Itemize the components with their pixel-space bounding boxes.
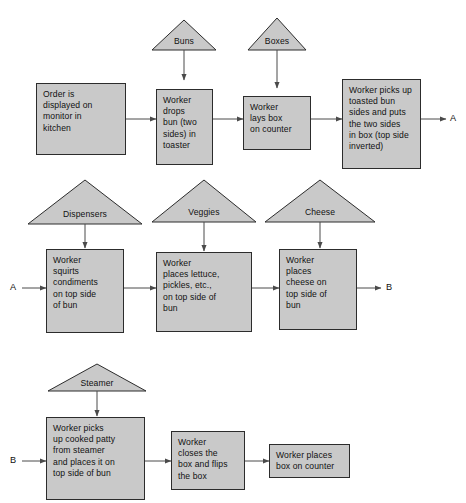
input-label-steamer: Steamer bbox=[48, 378, 146, 388]
input-label-dispensers: Dispensers bbox=[28, 209, 142, 219]
process-box-worker-picks-patty: Worker picks up cooked patty from steame… bbox=[46, 417, 145, 500]
process-box-order-displayed: Order is displayed on monitor in kitchen bbox=[36, 83, 126, 155]
input-label-veggies: Veggies bbox=[152, 207, 256, 217]
connector-label-a-entry: A bbox=[10, 282, 16, 292]
process-box-worker-drops-bun: Worker drops bun (two sides) in toaster bbox=[156, 89, 213, 165]
connector-label-a-exit: A bbox=[450, 113, 456, 123]
process-box-worker-places-veggies: Worker places lettuce, pickles, etc., on… bbox=[156, 252, 252, 332]
input-label-boxes: Boxes bbox=[248, 36, 306, 46]
process-box-worker-squirts-condiments: Worker squirts condiments on top side of… bbox=[46, 249, 124, 333]
process-box-worker-places-box: Worker places box on counter bbox=[269, 444, 350, 478]
process-box-worker-places-cheese: Worker places cheese on top side of bun bbox=[279, 249, 357, 330]
process-box-worker-lays-box: Worker lays box on counter bbox=[243, 96, 311, 150]
flowchart-canvas: Buns Boxes Order is displayed on monitor… bbox=[0, 0, 466, 503]
connector-label-b-exit: B bbox=[386, 282, 392, 292]
input-label-cheese: Cheese bbox=[265, 207, 375, 217]
input-label-buns: Buns bbox=[152, 36, 216, 46]
process-box-worker-picks-toasted-bun: Worker picks up toasted bun sides and pu… bbox=[342, 79, 421, 169]
process-box-worker-closes-box: Worker closes the box and flips the box bbox=[171, 431, 245, 490]
connector-label-b-entry: B bbox=[10, 455, 16, 465]
